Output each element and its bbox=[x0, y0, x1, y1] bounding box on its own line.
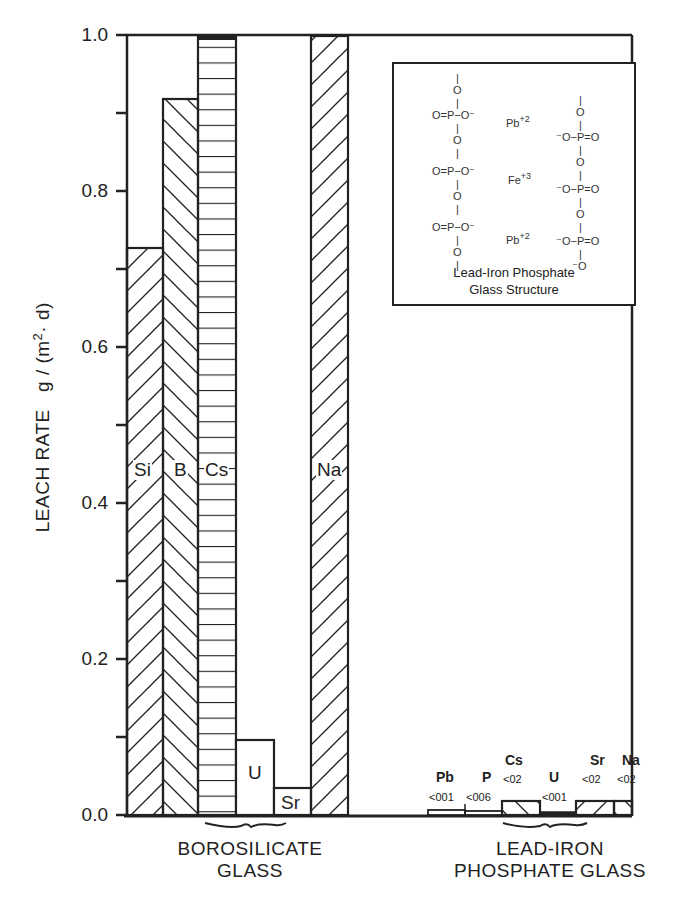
bar-na-lip bbox=[614, 801, 632, 815]
y-tick-0.6: 0.6 bbox=[58, 336, 108, 358]
label-p-lip: P bbox=[482, 769, 491, 785]
ion-pb-bottom: Pb+2 bbox=[506, 231, 530, 246]
bond-line: | bbox=[579, 248, 582, 260]
value-cs-lip: <02 bbox=[503, 773, 522, 785]
ion-fe-charge: +3 bbox=[521, 171, 531, 181]
bar-u-lip bbox=[540, 812, 576, 815]
group-label-phosphate-line1: LEAD-IRON bbox=[430, 838, 670, 860]
bond-line: | bbox=[579, 94, 582, 106]
value-sr-lip: <02 bbox=[582, 773, 601, 785]
bond-line: | bbox=[456, 234, 459, 246]
bond-line: | bbox=[579, 119, 582, 131]
phosphate-unit-right-2: ⁻O−P=O bbox=[556, 183, 599, 196]
phosphate-unit-right-1: ⁻O−P=O bbox=[556, 131, 599, 144]
y-tick-0.2: 0.2 bbox=[58, 648, 108, 670]
oxygen-atom: O bbox=[453, 134, 462, 146]
bar-p-lip bbox=[465, 811, 502, 815]
bar-na bbox=[311, 36, 348, 815]
y-tick-0.4: 0.4 bbox=[58, 492, 108, 514]
bond-line: | bbox=[456, 122, 459, 134]
group-label-borosilicate-line1: BOROSILICATE bbox=[150, 838, 350, 860]
oxygen-atom: O bbox=[576, 156, 585, 168]
group-label-phosphate-line2: PHOSPHATE GLASS bbox=[430, 860, 670, 882]
bar-b bbox=[163, 99, 198, 815]
inset-caption-line2: Glass Structure bbox=[394, 281, 634, 298]
value-u-lip: <001 bbox=[542, 791, 567, 803]
oxygen-atom: O bbox=[453, 84, 462, 96]
label-sr-lip: Sr bbox=[590, 752, 605, 768]
y-axis-label-main: LEACH RATE bbox=[32, 409, 53, 532]
phosphate-unit-left-2: O=P−O⁻ bbox=[432, 165, 475, 178]
label-cs: Cs bbox=[204, 460, 229, 480]
group-label-phosphate: LEAD-IRON PHOSPHATE GLASS bbox=[430, 838, 670, 882]
inset-caption-line1: Lead-Iron Phosphate bbox=[394, 264, 634, 281]
ion-pb-top-charge: +2 bbox=[519, 114, 529, 124]
y-axis-label-sup: 2 bbox=[30, 333, 45, 341]
value-p-lip: <006 bbox=[466, 791, 491, 803]
inset-caption: Lead-Iron Phosphate Glass Structure bbox=[394, 264, 634, 298]
bar-cs-lip bbox=[502, 801, 540, 815]
ion-fe-symbol: Fe bbox=[508, 174, 521, 186]
y-axis-label: LEACH RATE g / (m2· d) bbox=[30, 257, 54, 577]
bond-line: | bbox=[456, 178, 459, 190]
bond-line: | bbox=[579, 169, 582, 181]
bond-line: | bbox=[456, 72, 459, 84]
bond-line: | bbox=[456, 147, 459, 159]
phosphate-unit-left-3: O=P−O⁻ bbox=[432, 221, 475, 234]
oxygen-atom: O bbox=[576, 106, 585, 118]
bar-pb-lip bbox=[428, 810, 465, 815]
label-na-lip: Na bbox=[622, 752, 640, 768]
label-b: B bbox=[173, 460, 188, 480]
ion-pb-bottom-charge: +2 bbox=[519, 231, 529, 241]
inset-glass-structure: | O | O=P−O⁻ | O | O=P−O⁻ | O | O=P−O⁻ |… bbox=[392, 62, 636, 306]
group-label-borosilicate: BOROSILICATE GLASS bbox=[150, 838, 350, 882]
value-na-lip: <02 bbox=[617, 773, 636, 785]
bond-line: | bbox=[456, 97, 459, 109]
bond-line: | bbox=[579, 144, 582, 156]
bar-sr-lip bbox=[576, 801, 614, 815]
oxygen-atom: O bbox=[453, 190, 462, 202]
bond-line: | bbox=[456, 203, 459, 215]
y-tick-1.0: 1.0 bbox=[58, 24, 108, 46]
value-pb-lip: <001 bbox=[429, 791, 454, 803]
bar-si bbox=[127, 248, 163, 815]
oxygen-atom: O bbox=[453, 246, 462, 258]
phosphate-unit-left-1: O=P−O⁻ bbox=[432, 109, 475, 122]
phosphate-unit-right-3: ⁻O−P=O bbox=[556, 235, 599, 248]
label-pb-lip: Pb bbox=[436, 769, 454, 785]
label-u-lip: U bbox=[549, 769, 559, 785]
ion-pb-top-symbol: Pb bbox=[506, 117, 519, 129]
bond-line: | bbox=[579, 221, 582, 233]
ion-pb-bottom-symbol: Pb bbox=[506, 234, 519, 246]
y-ticks bbox=[116, 35, 127, 815]
y-axis-label-unit-end: · d) bbox=[32, 302, 53, 333]
bar-cs bbox=[198, 36, 236, 815]
label-si: Si bbox=[133, 460, 152, 480]
y-tick-0.0: 0.0 bbox=[58, 804, 108, 826]
bond-line: | bbox=[579, 196, 582, 208]
label-cs-lip: Cs bbox=[505, 752, 523, 768]
brace-borosilicate bbox=[205, 823, 286, 827]
y-axis-label-unit: g / (m bbox=[32, 340, 53, 392]
label-u: U bbox=[247, 763, 263, 783]
y-tick-0.8: 0.8 bbox=[58, 180, 108, 202]
label-na: Na bbox=[316, 460, 342, 480]
oxygen-atom: O bbox=[576, 208, 585, 220]
ion-pb-top: Pb+2 bbox=[506, 114, 530, 129]
group-label-borosilicate-line2: GLASS bbox=[150, 860, 350, 882]
label-sr: Sr bbox=[280, 793, 301, 813]
brace-phosphate bbox=[503, 823, 587, 827]
ion-fe: Fe+3 bbox=[508, 171, 531, 186]
